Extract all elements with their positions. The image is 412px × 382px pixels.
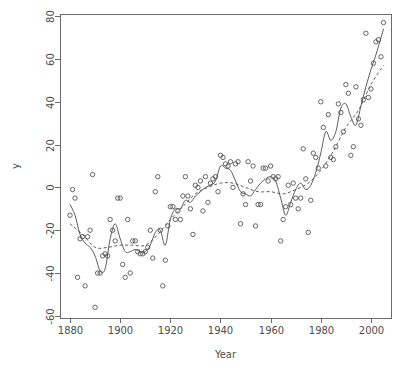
- scatter-points: [68, 20, 386, 309]
- data-point: [231, 185, 235, 189]
- data-point: [294, 196, 298, 200]
- data-point: [268, 164, 272, 168]
- data-point: [379, 55, 383, 59]
- data-point: [366, 95, 370, 99]
- data-point: [341, 130, 345, 134]
- y-tick-label: 40: [45, 96, 56, 109]
- x-axis-title: Year: [214, 349, 237, 360]
- data-point: [311, 151, 315, 155]
- smooth-trend-line: [70, 65, 383, 248]
- data-point: [120, 262, 124, 266]
- data-point: [173, 217, 177, 221]
- data-point: [108, 217, 112, 221]
- data-point: [351, 145, 355, 149]
- data-point: [314, 155, 318, 159]
- data-point: [309, 198, 313, 202]
- data-point: [201, 209, 205, 213]
- data-point: [186, 194, 190, 198]
- data-point: [306, 230, 310, 234]
- data-point: [381, 20, 385, 24]
- data-point: [334, 145, 338, 149]
- data-point: [278, 239, 282, 243]
- y-tick-label: -20: [45, 222, 56, 238]
- data-point: [156, 175, 160, 179]
- x-tick-label: 1980: [309, 325, 334, 336]
- y-tick-label: 0: [45, 184, 56, 190]
- data-point: [88, 228, 92, 232]
- data-point: [183, 175, 187, 179]
- data-point: [319, 100, 323, 104]
- data-point: [336, 102, 340, 106]
- x-axis-tick-labels: 1880190019201940196019802000: [58, 325, 384, 336]
- data-point: [148, 228, 152, 232]
- data-point: [126, 217, 130, 221]
- data-point: [304, 177, 308, 181]
- data-point: [296, 207, 300, 211]
- x-tick-label: 1900: [108, 325, 133, 336]
- data-point: [93, 305, 97, 309]
- plot-canvas: 1880190019201940196019802000 -60-40-2002…: [0, 0, 412, 382]
- x-tick-label: 2000: [359, 325, 384, 336]
- y-axis-title: y: [10, 163, 21, 169]
- data-point: [75, 275, 79, 279]
- data-point: [203, 175, 207, 179]
- data-point: [178, 217, 182, 221]
- data-point: [324, 164, 328, 168]
- data-point: [301, 147, 305, 151]
- data-point: [248, 179, 252, 183]
- data-point: [346, 91, 350, 95]
- data-point: [68, 213, 72, 217]
- data-point: [266, 179, 270, 183]
- r-scatter-figure: 1880190019201940196019802000 -60-40-2002…: [0, 0, 412, 382]
- data-point: [344, 82, 348, 86]
- data-point: [151, 256, 155, 260]
- data-point: [73, 196, 77, 200]
- data-point: [70, 187, 74, 191]
- data-point: [113, 239, 117, 243]
- data-point: [283, 204, 287, 208]
- data-point: [181, 194, 185, 198]
- data-point: [90, 172, 94, 176]
- data-point: [349, 153, 353, 157]
- data-point: [286, 183, 290, 187]
- data-point: [354, 85, 358, 89]
- data-point: [251, 164, 255, 168]
- x-tick-label: 1920: [158, 325, 183, 336]
- data-point: [321, 125, 325, 129]
- data-point: [281, 217, 285, 221]
- wiggly-smoother-line: [70, 29, 383, 273]
- y-tick-label: 20: [45, 139, 56, 152]
- x-tick-label: 1960: [259, 325, 284, 336]
- data-point: [326, 112, 330, 116]
- y-tick-label: -60: [45, 308, 56, 324]
- data-point: [188, 207, 192, 211]
- x-tick-label: 1880: [58, 325, 83, 336]
- data-point: [198, 179, 202, 183]
- y-axis-tick-labels: -60-40-20020406080: [45, 10, 56, 325]
- y-axis-ticks: [55, 17, 60, 317]
- data-point: [228, 160, 232, 164]
- data-point: [216, 189, 220, 193]
- data-point: [299, 196, 303, 200]
- data-point: [83, 284, 87, 288]
- data-point: [359, 123, 363, 127]
- data-point: [246, 160, 250, 164]
- data-point: [291, 181, 295, 185]
- data-point: [123, 275, 127, 279]
- data-point: [364, 31, 368, 35]
- x-tick-label: 1940: [208, 325, 233, 336]
- y-tick-label: -40: [45, 265, 56, 281]
- y-tick-label: 80: [45, 10, 56, 23]
- y-tick-label: 60: [45, 53, 56, 66]
- data-point: [238, 222, 242, 226]
- data-point: [191, 232, 195, 236]
- data-point: [253, 224, 257, 228]
- data-point: [206, 200, 210, 204]
- data-point: [153, 189, 157, 193]
- data-point: [128, 271, 132, 275]
- data-point: [163, 258, 167, 262]
- data-point: [243, 202, 247, 206]
- data-point: [161, 284, 165, 288]
